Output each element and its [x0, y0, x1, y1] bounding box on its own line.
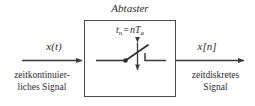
block-title: Abtaster [84, 2, 176, 15]
input-caption-line-1: zeitkontinuier- [0, 70, 84, 82]
clock-formula: tn=nTa [84, 24, 176, 39]
output-caption-line-2: Signal [176, 82, 255, 94]
output-caption: zeitdiskretes Signal [176, 70, 255, 93]
clock-formula-operator: = [122, 24, 130, 35]
output-signal-label: x[n] [180, 40, 234, 53]
input-signal-label: x(t) [28, 40, 80, 53]
input-caption: zeitkontinuier- liches Signal [0, 70, 84, 93]
sampler-block-diagram: Abtaster tn=nTa x(t) x[n] zeitkontinuier… [0, 0, 255, 106]
input-caption-line-2: liches Signal [0, 82, 84, 94]
output-caption-line-1: zeitdiskretes [176, 70, 255, 82]
clock-formula-period-subscript: a [140, 29, 144, 37]
